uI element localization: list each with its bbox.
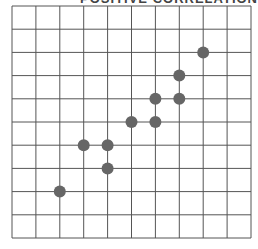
- data-point: [173, 93, 185, 105]
- scatter-plot: [0, 0, 258, 249]
- data-point: [149, 116, 161, 128]
- data-point: [149, 93, 161, 105]
- data-point: [78, 139, 90, 151]
- data-point: [102, 139, 114, 151]
- data-point: [126, 116, 138, 128]
- data-point: [54, 186, 66, 198]
- data-point: [102, 162, 114, 174]
- data-point: [173, 70, 185, 82]
- data-point: [197, 46, 209, 58]
